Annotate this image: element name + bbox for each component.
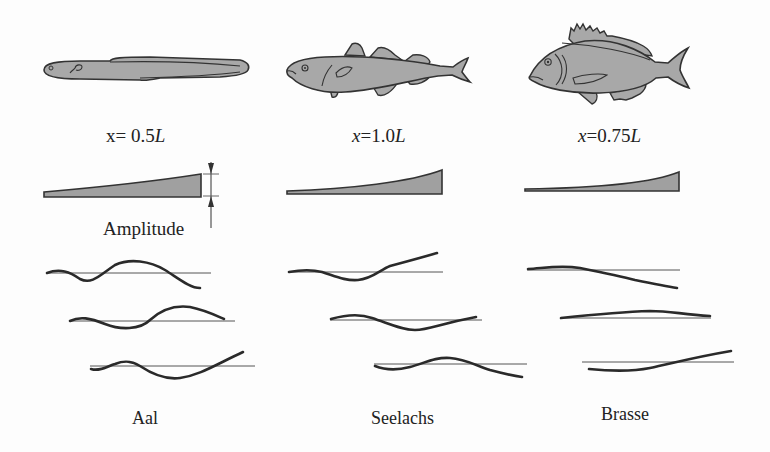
species-label-seelachs: Seelachs [371,408,434,429]
wave-brasse-1 [527,267,680,288]
species-label-aal: Aal [132,408,158,429]
pollock-icon [287,43,470,97]
wave-seelachs-1 [288,253,443,280]
amplitude-label: Amplitude [103,218,184,240]
bream-icon [529,24,689,104]
wave-brasse-3 [582,351,734,371]
wave-aal-3 [90,352,255,378]
wave-seelachs-2 [330,315,482,330]
position-label-brasse: x=0.75x=0.75L [578,125,641,147]
eel-icon [44,57,249,80]
amplitude-dimension-marker [203,162,219,228]
wave-aal-1 [46,261,211,288]
wave-seelachs-3 [374,358,527,377]
position-label-seelachs: xx=1.0=1.0L [352,125,405,147]
amplitude-envelope-aal [44,174,201,197]
wave-aal-2 [70,307,235,329]
wave-brasse-2 [561,311,711,318]
species-label-brasse: Brasse [601,404,649,425]
position-label-aal: x= 0.5L [106,125,165,147]
amplitude-envelope-seelachs [287,170,442,194]
fish-swimming-diagram: x= 0.5L xx=1.0=1.0L x=0.75x=0.75L Amplit… [0,0,770,452]
amplitude-envelope-brasse [525,172,679,191]
